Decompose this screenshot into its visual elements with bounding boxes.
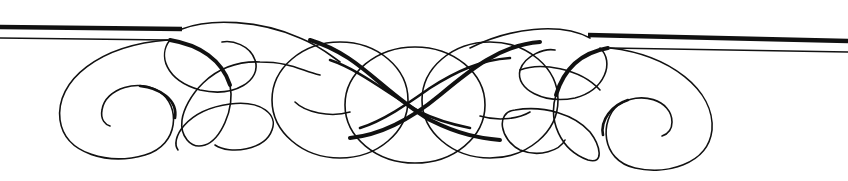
right-rule-lines	[588, 35, 848, 52]
left-rule-lines	[0, 27, 182, 40]
left-spiral-flourish	[60, 40, 176, 159]
center-crossing-ovals	[272, 40, 558, 163]
calligraphic-flourish-ornament	[0, 0, 848, 181]
right-spiral-flourish	[603, 48, 713, 170]
